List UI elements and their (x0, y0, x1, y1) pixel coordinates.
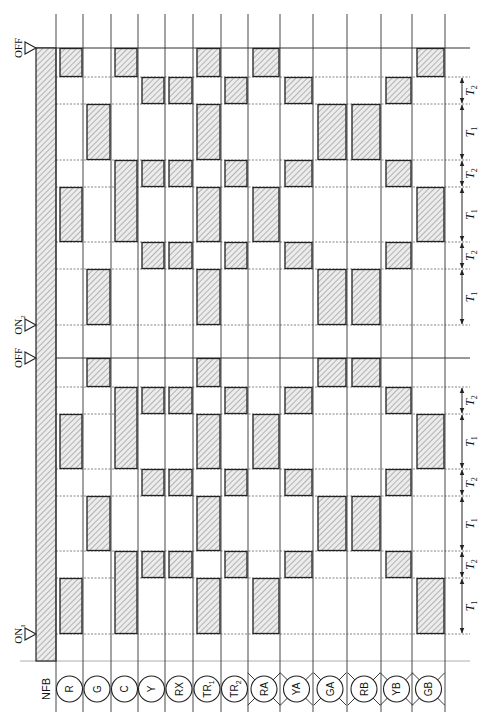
marker-triangle-on1 (25, 628, 36, 640)
interval-label-1: T1 (463, 127, 479, 138)
block-tr2-4 (225, 470, 247, 496)
block-g-1 (87, 270, 110, 325)
block-rx-1 (169, 161, 192, 187)
marker-label-off_top: OFF (12, 38, 24, 58)
interval-label-11: T1 (463, 601, 479, 612)
block-c-1 (115, 161, 137, 242)
block-gb-0 (417, 49, 444, 77)
block-ra-3 (253, 579, 279, 634)
block-rb-0 (352, 105, 380, 160)
block-tr1-5 (197, 415, 220, 469)
block-ga-3 (318, 497, 346, 551)
block-rb-1 (352, 270, 380, 325)
block-rx-2 (169, 243, 192, 269)
block-ya-2 (285, 243, 312, 269)
block-ra-0 (253, 49, 279, 77)
block-rx-0 (169, 78, 192, 104)
column-dividers (56, 14, 445, 712)
block-yb-1 (386, 161, 411, 187)
device-label-ra: RA (259, 682, 270, 696)
block-tr1-1 (197, 105, 220, 160)
block-c-3 (115, 552, 137, 634)
nfb-bar (36, 48, 56, 661)
timing-diagram: OFFON2OFFON1 T2T1T2T1T2T1T2T1T2T1T2T1 NF… (0, 0, 489, 722)
block-ya-1 (285, 161, 312, 187)
device-label-ya: YA (291, 682, 302, 695)
device-label-ga: GA (325, 681, 336, 696)
block-tr2-0 (225, 78, 247, 104)
block-gb-1 (417, 188, 444, 242)
block-y-2 (142, 243, 164, 269)
block-tr1-4 (197, 359, 220, 387)
device-label-rx: RX (174, 682, 185, 696)
nfb-label: NFB (40, 678, 52, 700)
interval-label-2: T2 (463, 168, 479, 179)
device-label-y: Y (146, 685, 157, 692)
block-ga-0 (318, 105, 346, 160)
block-tr1-6 (197, 497, 220, 551)
block-c-0 (115, 49, 137, 77)
block-y-5 (142, 552, 164, 578)
interval-label-6: T2 (463, 395, 479, 406)
block-yb-2 (386, 243, 411, 269)
interval-label-7: T1 (463, 436, 479, 447)
block-g-3 (87, 497, 110, 551)
device-labels: NFBRGCYRXTR1TR2RAYAGARBYBGB (40, 673, 445, 706)
block-ra-2 (253, 415, 279, 469)
interval-label-8: T2 (463, 477, 479, 488)
block-c-2 (115, 388, 137, 469)
device-label-rb: RB (359, 682, 370, 696)
block-g-2 (87, 359, 110, 387)
block-tr2-1 (225, 161, 247, 187)
block-ra-1 (253, 188, 279, 242)
block-rb-2 (352, 359, 380, 387)
block-r-0 (60, 49, 82, 77)
block-tr2-2 (225, 243, 247, 269)
block-ya-0 (285, 78, 312, 104)
block-yb-3 (386, 388, 411, 414)
device-label-r: R (64, 685, 75, 692)
block-g-0 (87, 105, 110, 160)
interval-label-10: T2 (463, 559, 479, 570)
marker-label-off_mid: OFF (12, 348, 24, 368)
interval-label-9: T1 (463, 518, 479, 529)
block-tr1-7 (197, 579, 220, 634)
block-rb-3 (352, 497, 380, 551)
block-tr1-2 (197, 188, 220, 242)
block-ya-3 (285, 388, 312, 414)
block-r-2 (60, 415, 82, 469)
block-tr2-5 (225, 552, 247, 578)
block-ga-1 (318, 270, 346, 325)
block-y-1 (142, 161, 164, 187)
block-rx-4 (169, 470, 192, 496)
block-y-4 (142, 470, 164, 496)
interval-label-5: T1 (463, 292, 479, 303)
interval-label-4: T2 (463, 250, 479, 261)
block-y-0 (142, 78, 164, 104)
block-ya-5 (285, 552, 312, 578)
device-label-g: G (92, 685, 103, 693)
state-blocks (36, 48, 444, 661)
block-ga-2 (318, 359, 346, 387)
block-ya-4 (285, 470, 312, 496)
interval-dimensions: T2T1T2T1T2T1T2T1T2T1T2T1 (462, 78, 479, 633)
interval-label-0: T2 (463, 85, 479, 96)
block-r-1 (60, 188, 82, 242)
block-gb-2 (417, 415, 444, 469)
block-tr1-0 (197, 49, 220, 77)
block-tr2-3 (225, 388, 247, 414)
block-rx-5 (169, 552, 192, 578)
block-gb-3 (417, 579, 444, 634)
block-y-3 (142, 388, 164, 414)
block-tr1-3 (197, 270, 220, 325)
block-yb-5 (386, 552, 411, 578)
interval-label-3: T1 (463, 209, 479, 220)
marker-triangle-off_mid (25, 352, 36, 364)
block-yb-4 (386, 470, 411, 496)
device-label-gb: GB (423, 681, 434, 696)
marker-triangle-off_top (25, 42, 36, 54)
switch-markers: OFFON2OFFON1 (12, 38, 36, 644)
block-yb-0 (386, 78, 411, 104)
marker-triangle-on2 (25, 319, 36, 331)
device-label-yb: YB (391, 682, 402, 696)
